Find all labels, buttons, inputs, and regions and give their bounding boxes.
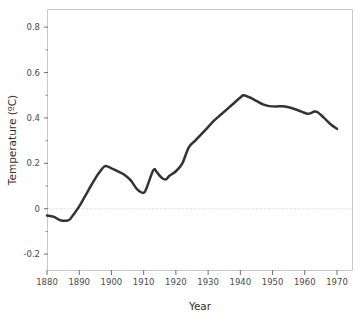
x-axis-tick-labels: 1880189019001910192019301940195019601970 <box>36 277 348 287</box>
x-tick-label: 1940 <box>230 277 252 287</box>
y-tick-label: 0.8 <box>26 22 40 32</box>
x-tick-label: 1900 <box>101 277 123 287</box>
temperature-anomaly-chart-figure: -0.200.20.40.60.8 1880189019001910192019… <box>0 0 364 321</box>
y-axis-title: Temperature (ºC) <box>6 95 18 186</box>
y-tick-label: 0.2 <box>26 158 40 168</box>
x-tick-label: 1960 <box>294 277 316 287</box>
chart-canvas: -0.200.20.40.60.8 1880189019001910192019… <box>0 0 364 321</box>
x-tick-label: 1930 <box>197 277 219 287</box>
y-tick-label: 0.4 <box>26 113 40 123</box>
y-tick-label: 0 <box>35 204 40 214</box>
x-tick-label: 1970 <box>326 277 348 287</box>
x-axis-title: Year <box>188 300 212 312</box>
temperature-series-line <box>47 95 337 221</box>
y-tick-label: 0.6 <box>26 68 40 78</box>
x-tick-label: 1920 <box>165 277 187 287</box>
y-tick-label: -0.2 <box>23 249 40 259</box>
x-tick-label: 1890 <box>68 277 90 287</box>
y-axis-tick-labels: -0.200.20.40.60.8 <box>23 22 40 259</box>
x-tick-label: 1950 <box>262 277 284 287</box>
x-tick-label: 1880 <box>36 277 58 287</box>
x-tick-label: 1910 <box>133 277 155 287</box>
plot-frame <box>48 10 353 271</box>
